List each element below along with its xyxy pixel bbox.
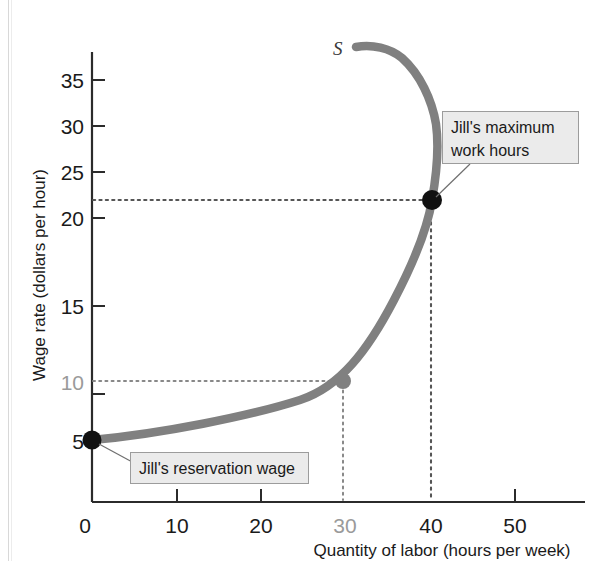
x-tick-label-20: 20 (249, 514, 272, 537)
annotation-reservation-wage: Jill's reservation wage (130, 452, 309, 484)
y-tick-label-20: 20 (61, 207, 84, 230)
leader-line-max-hours (436, 164, 470, 197)
y-tick-label-25: 25 (61, 161, 84, 184)
y-axis-title: Wage rate (dollars per hour) (30, 169, 49, 381)
x-tick-label-40: 40 (419, 514, 442, 537)
y-tick-label-35: 35 (61, 69, 84, 92)
marker-kink-point (335, 373, 351, 389)
y-tick-label-5: 5 (72, 430, 84, 453)
x-tick-label-10: 10 (165, 514, 188, 537)
y-tick-label-30: 30 (61, 115, 84, 138)
y-tick-label-10: 10 (61, 371, 84, 394)
x-axis-title: Quantity of labor (hours per week) (313, 541, 570, 560)
figure-canvas: S 35 30 25 20 15 10 5 0 10 20 30 40 50 W… (0, 0, 589, 561)
marker-maximum-work-hours (422, 190, 442, 210)
annotation-maximum-work-hours: Jill's maximum work hours (442, 111, 579, 164)
x-tick-label-30: 30 (333, 514, 356, 537)
y-tick-label-15: 15 (61, 295, 84, 318)
curve-label-s: S (333, 38, 343, 59)
marker-reservation-wage (83, 431, 102, 450)
x-tick-label-50: 50 (503, 514, 526, 537)
x-tick-label-0: 0 (79, 514, 91, 537)
